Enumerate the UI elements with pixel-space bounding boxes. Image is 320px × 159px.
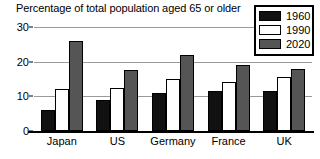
chart-title: Percentage of total population aged 65 o… xyxy=(16,2,241,15)
y-tick-mark-10 xyxy=(29,96,33,97)
x-axis-label-france: France xyxy=(201,134,257,152)
y-tick-mark-30 xyxy=(29,27,33,28)
bar-france-1990 xyxy=(222,82,236,131)
bar-germany-1960 xyxy=(152,93,166,131)
bar-us-1990 xyxy=(110,88,124,131)
bar-japan-2020 xyxy=(69,41,83,131)
legend-label-1990: 1990 xyxy=(286,25,310,36)
x-axis-label-us: US xyxy=(90,134,146,152)
bar-france-2020 xyxy=(236,65,250,131)
legend-swatch-icon-1990 xyxy=(259,25,281,35)
bar-group-france xyxy=(201,27,257,131)
legend-item-1990: 1990 xyxy=(259,23,309,37)
bar-japan-1990 xyxy=(55,89,69,131)
legend-label-2020: 2020 xyxy=(286,39,310,50)
y-tick-label-30: 30 xyxy=(17,22,29,33)
bar-uk-1990 xyxy=(277,77,291,131)
bar-us-2020 xyxy=(124,70,138,131)
bar-japan-1960 xyxy=(41,110,55,131)
y-tick-label-10: 10 xyxy=(17,91,29,102)
y-tick-label-20: 20 xyxy=(17,56,29,67)
bar-group-japan xyxy=(34,27,90,131)
legend-swatch-icon-2020 xyxy=(259,39,281,49)
bar-uk-2020 xyxy=(291,69,305,131)
x-axis-label-japan: Japan xyxy=(34,134,90,152)
bar-uk-1960 xyxy=(263,91,277,131)
legend-swatch-icon-1960 xyxy=(259,11,281,21)
x-axis-line xyxy=(28,131,314,133)
bar-germany-1990 xyxy=(166,79,180,131)
bar-group-us xyxy=(90,27,146,131)
chart-legend: 1960 1990 2020 xyxy=(254,5,314,56)
legend-item-2020: 2020 xyxy=(259,37,309,51)
bar-france-1960 xyxy=(208,91,222,131)
bar-germany-2020 xyxy=(180,55,194,131)
y-tick-mark-20 xyxy=(29,61,33,62)
x-axis-labels: JapanUSGermanyFranceUK xyxy=(34,134,312,152)
legend-label-1960: 1960 xyxy=(286,11,310,22)
x-axis-label-uk: UK xyxy=(256,134,312,152)
bar-us-1960 xyxy=(96,100,110,131)
bar-chart: Percentage of total population aged 65 o… xyxy=(0,0,320,159)
bar-group-germany xyxy=(145,27,201,131)
legend-item-1960: 1960 xyxy=(259,9,309,23)
x-axis-label-germany: Germany xyxy=(145,134,201,152)
